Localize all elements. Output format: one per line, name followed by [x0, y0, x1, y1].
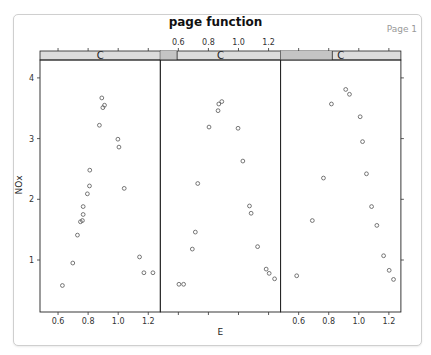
x-tick-label: 0.6: [172, 38, 185, 47]
data-point: [196, 182, 200, 186]
y-axis-title: NOx: [14, 175, 24, 195]
x-tick-label: 1.2: [262, 38, 275, 47]
data-point: [267, 271, 271, 275]
data-point: [116, 137, 120, 141]
strip-indicator: [281, 51, 333, 60]
data-point: [330, 102, 334, 106]
strip-label: C: [217, 50, 224, 61]
y-tick-label: 4: [29, 74, 34, 83]
data-point: [61, 284, 65, 288]
data-point: [322, 176, 326, 180]
data-point: [100, 96, 104, 100]
y-tick-label: 3: [29, 135, 34, 144]
data-point: [249, 211, 253, 215]
data-point: [361, 140, 365, 144]
data-point: [241, 159, 245, 163]
x-tick-label: 1.0: [112, 317, 125, 326]
data-point: [344, 88, 348, 92]
panel-3: [281, 60, 401, 312]
data-point: [273, 277, 277, 281]
data-point: [151, 271, 155, 275]
data-point: [216, 109, 220, 113]
data-point: [387, 268, 391, 272]
x-tick-label: 0.8: [202, 38, 215, 47]
x-tick-label: 0.8: [322, 317, 335, 326]
data-point: [256, 245, 260, 249]
data-point: [358, 115, 362, 119]
strip-label: C: [337, 50, 344, 61]
x-tick-label: 0.6: [52, 317, 65, 326]
data-point: [264, 267, 268, 271]
data-point: [97, 123, 101, 127]
data-point: [365, 172, 369, 176]
x-tick-label: 1.2: [383, 317, 396, 326]
data-point: [117, 145, 121, 149]
data-point: [122, 186, 126, 190]
data-point: [392, 278, 396, 282]
data-point: [236, 126, 240, 130]
x-tick-label: 1.2: [142, 317, 155, 326]
data-point: [217, 102, 221, 106]
x-tick-label: 0.6: [292, 317, 305, 326]
data-point: [375, 224, 379, 228]
y-tick-label: 2: [29, 195, 34, 204]
data-point: [182, 282, 186, 286]
data-point: [193, 230, 197, 234]
data-point: [382, 254, 386, 258]
x-axis-title: E: [218, 327, 224, 337]
data-point: [295, 274, 299, 278]
panel-2: [160, 60, 280, 312]
x-tick-label: 0.8: [82, 317, 95, 326]
data-point: [348, 92, 352, 96]
data-point: [71, 261, 75, 265]
y-tick-label: 1: [29, 256, 34, 265]
data-point: [177, 282, 181, 286]
x-tick-label: 1.0: [352, 317, 365, 326]
data-point: [88, 184, 92, 188]
data-point: [76, 233, 80, 237]
strip-indicator: [160, 51, 177, 60]
data-point: [207, 125, 211, 129]
data-point: [248, 204, 252, 208]
data-point: [138, 255, 142, 259]
data-point: [81, 213, 85, 217]
data-point: [88, 168, 92, 172]
data-point: [310, 219, 314, 223]
data-point: [142, 271, 146, 275]
data-point: [190, 247, 194, 251]
trellis-plot: C0.60.81.01.2C0.60.81.01.2C0.60.81.01.21…: [0, 0, 431, 355]
strip-label: C: [97, 50, 104, 61]
data-point: [370, 205, 374, 209]
x-tick-label: 1.0: [232, 38, 245, 47]
data-point: [81, 205, 85, 209]
data-point: [85, 192, 89, 196]
